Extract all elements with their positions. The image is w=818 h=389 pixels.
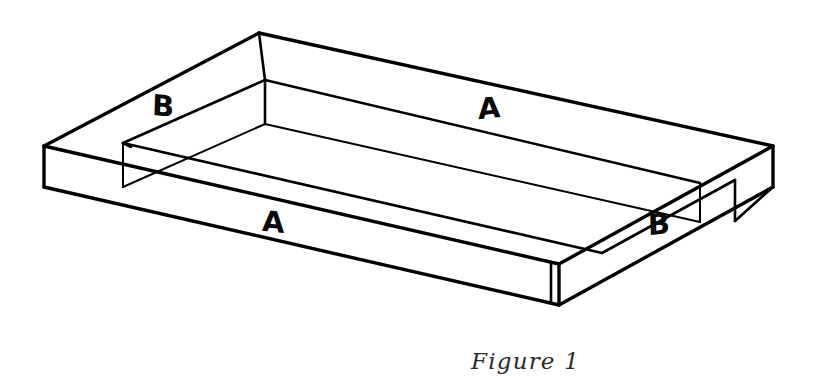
figure-container: A A B B Figure 1 (0, 0, 818, 389)
figure-caption: Figure 1 (471, 348, 580, 374)
part-label-a-front: A (262, 207, 285, 238)
box-frame-drawing (0, 0, 818, 389)
part-label-b-left: B (152, 91, 175, 122)
part-label-a-top: A (478, 93, 501, 124)
part-label-b-right: B (648, 209, 671, 240)
